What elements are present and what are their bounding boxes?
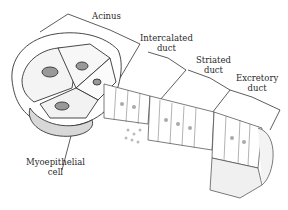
excretory-duct-label: Excretory duct (236, 74, 278, 93)
striated-duct-label: Striated duct (196, 56, 231, 75)
intercalated-bracket (148, 52, 186, 70)
salivary-gland-illustration (0, 0, 288, 210)
acinus-label: Acinus (92, 12, 121, 22)
striated-label-line-2: duct (196, 66, 231, 76)
duct-drawing (104, 84, 273, 198)
intercalated-label-line-2: duct (140, 44, 193, 54)
myoepithelial-label-line-2: cell (26, 168, 85, 178)
excretory-bracket (230, 90, 280, 110)
intercalated-duct-label: Intercalated duct (140, 34, 193, 53)
myoepithelial-cell-label: Myoepithelial cell (26, 158, 85, 177)
excretory-label-line-2: duct (236, 84, 278, 94)
